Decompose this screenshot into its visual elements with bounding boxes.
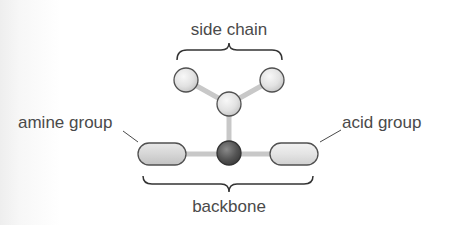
side-chain-brace [177,43,282,60]
acid-group-label: acid group [342,113,421,132]
side-chain-atom-middle [217,92,241,116]
backbone-label: backbone [192,197,266,216]
side-chain-atom-left [174,68,198,92]
amino-acid-diagram: side chain amine group acid group backbo… [0,0,463,225]
amine-group-label: amine group [18,113,113,132]
side-chain-label: side chain [191,20,268,39]
acid-group-shape [270,143,318,165]
acid-group-leader-line [320,130,341,142]
amine-group-shape [138,143,186,165]
diagram-canvas: side chain amine group acid group backbo… [0,0,463,225]
amine-group-leader-line [123,131,138,142]
backbone-brace [143,176,313,192]
alpha-carbon-atom [217,141,241,165]
side-chain-atom-right [260,68,284,92]
